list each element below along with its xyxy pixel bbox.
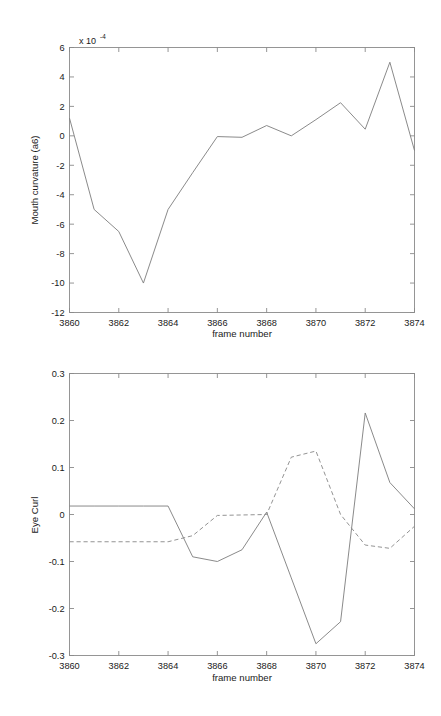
data-line-eye-curl-dashed — [70, 451, 415, 548]
x-tick-label: 3862 — [109, 318, 129, 328]
x-axis-label: frame number — [212, 672, 273, 683]
axis-tick-labels: 386038623864386638683870387238740.30.20.… — [49, 369, 425, 671]
x-tick-label: 3862 — [109, 661, 129, 671]
x-tick-label: 3864 — [158, 661, 178, 671]
x-tick-label: 3860 — [59, 661, 79, 671]
x-tick-label: 3870 — [306, 318, 326, 328]
y-tick-label: 0.1 — [52, 463, 65, 473]
y-axis-label: Eye Curl — [29, 497, 40, 534]
y-tick-label: 0 — [59, 510, 64, 520]
plot-frame — [70, 374, 415, 656]
chart-panel-eye-curl: 386038623864386638683870387238740.30.20.… — [0, 358, 441, 716]
exponent-power: -4 — [100, 33, 106, 40]
x-tick-label: 3864 — [158, 318, 178, 328]
x-tick-label: 3872 — [355, 661, 375, 671]
y-tick-label: -12 — [51, 308, 64, 318]
y-axis-label: Mouth curvature (a6) — [29, 135, 40, 224]
y-tick-label: -8 — [56, 249, 64, 259]
y-tick-label: -10 — [51, 278, 64, 288]
x-tick-label: 3870 — [306, 661, 326, 671]
x-tick-label: 3874 — [404, 318, 424, 328]
y-tick-label: 0.3 — [52, 369, 65, 379]
y-tick-label: 0.2 — [52, 416, 65, 426]
y-tick-label: 6 — [59, 43, 64, 53]
x-tick-label: 3872 — [355, 318, 375, 328]
x-tick-label: 3868 — [256, 318, 276, 328]
mouth-curvature-plot: 386038623864386638683870387238746420-2-4… — [0, 0, 441, 358]
chart-panel-mouth-curvature: 386038623864386638683870387238746420-2-4… — [0, 0, 441, 358]
y-tick-label: -0.2 — [49, 604, 65, 614]
y-tick-label: -0.3 — [49, 651, 65, 661]
data-line-mouth-curvature — [70, 62, 415, 283]
axis-ticks — [70, 374, 415, 656]
axis-tick-labels: 386038623864386638683870387238746420-2-4… — [51, 43, 425, 328]
plot-frame — [70, 48, 415, 313]
exponent-label: x 10 — [79, 36, 96, 46]
y-tick-label: -0.1 — [49, 557, 65, 567]
eye-curl-plot: 386038623864386638683870387238740.30.20.… — [0, 358, 441, 716]
x-tick-label: 3868 — [256, 661, 276, 671]
x-tick-label: 3866 — [207, 318, 227, 328]
x-tick-label: 3874 — [404, 661, 424, 671]
figure-container: 386038623864386638683870387238746420-2-4… — [0, 0, 441, 716]
y-tick-label: -2 — [56, 161, 64, 171]
axis-ticks — [70, 48, 415, 313]
y-tick-label: 0 — [59, 131, 64, 141]
data-line-eye-curl-solid — [70, 413, 415, 644]
x-tick-label: 3860 — [59, 318, 79, 328]
y-tick-label: 2 — [59, 102, 64, 112]
y-tick-label: -6 — [56, 220, 64, 230]
y-tick-label: -4 — [56, 190, 64, 200]
y-tick-label: 4 — [59, 72, 64, 82]
x-tick-label: 3866 — [207, 661, 227, 671]
x-axis-label: frame number — [212, 328, 273, 339]
